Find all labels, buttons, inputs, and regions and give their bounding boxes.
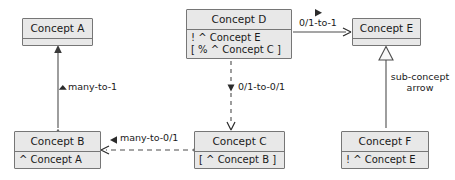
edge-label-0-1-to-1: 0/1-to-1: [299, 18, 337, 29]
edge-d-to-c: [227, 61, 235, 130]
edge-b-to-a: [53, 45, 67, 138]
uml-diagram-canvas: Concept A Concept B ^ Concept A Concept …: [0, 0, 455, 180]
node-concept-d[interactable]: Concept D ! ^ Concept E [ % ^ Concept C …: [186, 9, 292, 59]
node-title: Concept C: [195, 132, 284, 151]
node-attribute: ! ^ Concept E: [346, 154, 424, 167]
node-concept-e[interactable]: Concept E: [352, 18, 421, 46]
edge-label-0-1-to-0-1: 0/1-to-0/1: [238, 82, 285, 93]
node-attribute: [ % ^ Concept C ]: [191, 44, 287, 57]
node-attributes: ! ^ Concept E: [342, 151, 428, 169]
node-attribute: ! ^ Concept E: [191, 32, 287, 45]
node-title: Concept D: [187, 10, 291, 29]
node-concept-f[interactable]: Concept F ! ^ Concept E: [341, 131, 429, 169]
edge-label-many-to-1: many-to-1: [68, 82, 117, 93]
node-concept-a[interactable]: Concept A: [22, 18, 93, 46]
node-attributes: ! ^ Concept E [ % ^ Concept C ]: [187, 29, 291, 59]
node-attributes: [23, 38, 92, 46]
node-attribute: ^ Concept A: [19, 154, 96, 167]
node-attribute: [ ^ Concept B ]: [199, 154, 280, 167]
node-concept-c[interactable]: Concept C [ ^ Concept B ]: [194, 131, 285, 169]
node-title: Concept E: [353, 19, 420, 38]
node-attributes: ^ Concept A: [15, 151, 100, 169]
node-title: Concept A: [23, 19, 92, 38]
node-attributes: [353, 38, 420, 46]
node-title: Concept B: [15, 132, 100, 151]
edge-label-many-to-0-1: many-to-0/1: [120, 133, 178, 144]
node-concept-b[interactable]: Concept B ^ Concept A: [14, 131, 101, 169]
edge-label-sub-concept-arrow: sub-concept arrow: [389, 72, 451, 94]
node-attributes: [ ^ Concept B ]: [195, 151, 284, 169]
node-title: Concept F: [342, 132, 428, 151]
